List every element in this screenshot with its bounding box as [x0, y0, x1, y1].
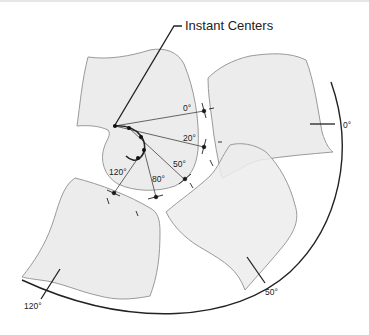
title-label: Instant Centers — [185, 18, 274, 33]
position-label-120: 120° — [24, 301, 42, 311]
angle-label-80: 80° — [152, 174, 165, 184]
angle-label-120: 120° — [109, 167, 127, 177]
position-label-50: 50° — [265, 287, 278, 297]
position-label-0: 0° — [343, 120, 351, 130]
angle-label-20: 20° — [183, 133, 196, 143]
angle-label-0: 0° — [183, 103, 191, 113]
proximal-bone — [77, 49, 198, 190]
instant-centers-diagram: Instant Centers 0° 20° 50° 80° 120° 0° 5… — [0, 0, 369, 335]
angle-label-50: 50° — [173, 159, 186, 169]
distal-bone-120deg — [22, 178, 160, 299]
